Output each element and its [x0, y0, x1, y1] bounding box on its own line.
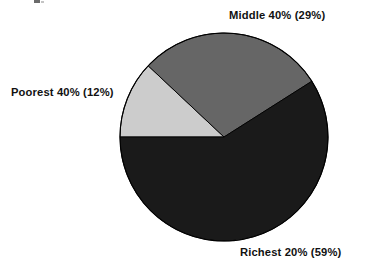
pie-chart-canvas: [0, 0, 369, 269]
slice-label-middle: Middle 40% (29%): [229, 9, 325, 22]
slice-label-richest: Richest 20% (59%): [240, 246, 341, 259]
scan-artifact-mark: [34, 0, 40, 3]
scan-artifact-mark-secondary: [41, 1, 44, 3]
pie-slices-group: [120, 33, 328, 241]
slice-label-poorest: Poorest 40% (12%): [11, 86, 114, 99]
pie-chart-figure: Middle 40% (29%) Poorest 40% (12%) Riche…: [0, 0, 369, 269]
